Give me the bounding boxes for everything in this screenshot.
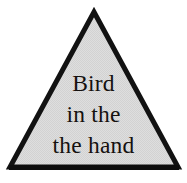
caption-text: Bird in the the hand: [0, 68, 187, 161]
caption-line-3: the hand: [0, 130, 187, 161]
illusion-figure: Bird in the the hand: [0, 0, 187, 183]
caption-line-1: Bird: [0, 68, 187, 99]
caption-line-2: in the: [0, 99, 187, 130]
